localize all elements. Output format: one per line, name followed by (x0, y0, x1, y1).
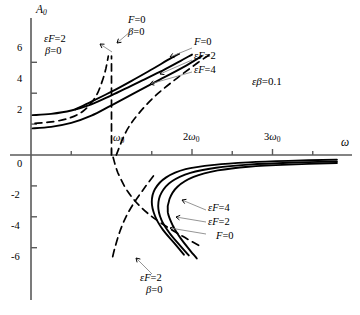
y-tick-label-0: 0 (17, 158, 22, 170)
x-axis-ticks (71, 149, 313, 155)
annotation-upper-right: F=0 εF=2 εF=4 (194, 36, 216, 75)
annotation-lower-right-0: εF=4 (208, 202, 234, 214)
leader-lines (100, 31, 206, 274)
leader-arrow-0 (100, 44, 104, 48)
annotation-upper-right-2: εF=4 (194, 64, 216, 76)
curve-7 (112, 176, 153, 259)
y-tick-label-neg2: -2 (11, 189, 20, 201)
leader-6 (176, 217, 206, 222)
y-tick-label-2: 2 (17, 104, 22, 116)
leader-5 (182, 200, 206, 210)
y-tick-label-4: 4 (17, 73, 22, 85)
annotation-lower-right: εF=4 εF=2 F=0 (208, 202, 234, 241)
annotation-lower-right-1: εF=2 (208, 216, 234, 228)
x-tick-label-omega0: ω0 (113, 132, 124, 145)
y-tick-label-6: 6 (17, 42, 22, 54)
annotation-lower-center: εF=2 β=0 (140, 272, 162, 296)
x-axis-title: ω (341, 136, 349, 149)
y-tick-label-neg6: -6 (11, 251, 20, 263)
x-tick-label-3omega0: 3ω0 (264, 131, 280, 144)
annotation-upper-right-0: F=0 (194, 36, 216, 48)
curve-5 (75, 54, 179, 110)
curve-8 (158, 162, 337, 256)
curve-9 (168, 163, 337, 259)
annotation-upper-right-1: εF=2 (194, 50, 216, 62)
y-tick-label-neg4: -4 (11, 220, 20, 232)
annotation-lower-right-2: F=0 (216, 230, 234, 242)
curve-group (33, 54, 337, 259)
chart-figure: A0 ω ω0 2ω0 3ω0 6 4 2 0 -2 -4 -6 εF=2 β=… (0, 0, 360, 315)
y-axis-title: A0 (36, 3, 47, 17)
annotation-upper-mid: F=0 β=0 (128, 14, 146, 38)
x-tick-label-2omega0: 2ω0 (183, 131, 199, 144)
annotation-parameter: εβ=0.1 (252, 75, 282, 87)
curve-10 (152, 160, 337, 255)
annotation-upper-left: εF=2 β=0 (44, 33, 66, 57)
